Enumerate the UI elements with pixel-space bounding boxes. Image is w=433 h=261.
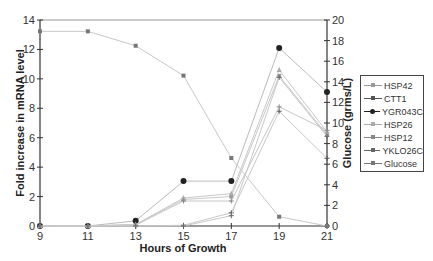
y2-tick-label: 6 <box>332 158 338 170</box>
legend-marker-icon <box>364 107 380 116</box>
legend-marker-icon <box>364 146 380 155</box>
y2-tick-label: 4 <box>332 179 338 191</box>
legend-label: YKLO26C <box>382 146 423 156</box>
legend-label: Glucose <box>384 159 417 169</box>
x-tick-label: 17 <box>225 230 237 242</box>
legend-marker-icon <box>364 81 382 90</box>
legend-label: HSP12 <box>384 133 413 143</box>
y-axis-title: Fold increase in mRNA level <box>14 49 26 197</box>
y2-tick-label: 18 <box>332 35 344 47</box>
x-tick-label: 15 <box>177 230 189 242</box>
x-axis-title: Hours of Growth <box>140 242 227 254</box>
x-tick-label: 21 <box>321 230 333 242</box>
x-tick-label: 11 <box>82 230 93 242</box>
legend-item: HSP26 <box>361 118 423 131</box>
series-yklo26c <box>38 75 330 229</box>
legend-item: HSP42 <box>361 79 423 92</box>
chart-legend: HSP42CTT1YGR043CHSP26HSP12YKLO26CGlucose <box>360 75 424 172</box>
y-tick-label: 4 <box>29 161 35 173</box>
series-hsp12 <box>38 104 330 228</box>
legend-marker-icon <box>364 133 382 142</box>
y-tick-label: 0 <box>29 220 35 232</box>
legend-item: YGR043C <box>361 105 423 118</box>
y2-tick-label: 20 <box>332 14 344 26</box>
legend-item: CTT1 <box>361 92 423 105</box>
legend-marker-icon <box>364 120 382 129</box>
x-tick-label: 9 <box>37 230 43 242</box>
y2-tick-label: 8 <box>332 138 338 150</box>
y2-tick-label: 2 <box>332 199 338 211</box>
legend-label: HSP42 <box>384 81 413 91</box>
y-tick-label: 6 <box>29 132 35 144</box>
y2-tick-label: 16 <box>332 55 344 67</box>
y-tick-label: 2 <box>29 191 35 203</box>
legend-item: YKLO26C <box>361 144 423 157</box>
x-tick-label: 13 <box>130 230 142 242</box>
series-ctt1 <box>38 109 330 229</box>
x-tick-label: 19 <box>273 230 285 242</box>
legend-item: HSP12 <box>361 131 423 144</box>
legend-marker-icon <box>364 159 382 168</box>
legend-item: Glucose <box>361 157 423 170</box>
legend-label: YGR043C <box>382 107 423 117</box>
y-tick-label: 14 <box>23 14 35 26</box>
series-hsp42 <box>38 74 329 228</box>
y-tick-label: 8 <box>29 102 35 114</box>
series-hsp26 <box>38 67 330 228</box>
y2-axis-title: Glucose (grms/L) <box>341 77 353 168</box>
legend-label: HSP26 <box>384 120 413 130</box>
legend-label: CTT1 <box>384 94 407 104</box>
legend-marker-icon <box>364 94 382 103</box>
